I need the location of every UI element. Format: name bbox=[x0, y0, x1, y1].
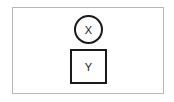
node-x-label: X bbox=[85, 24, 92, 36]
node-y-square: Y bbox=[70, 49, 107, 84]
node-x-circle: X bbox=[74, 15, 103, 44]
node-y-label: Y bbox=[85, 61, 92, 73]
